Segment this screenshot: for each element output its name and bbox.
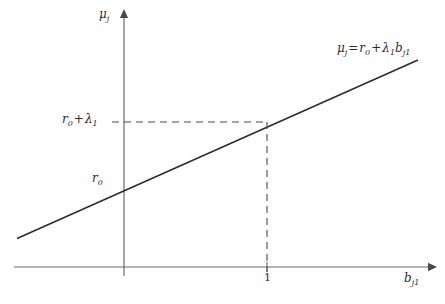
regression-line bbox=[17, 60, 418, 239]
equation-term2-symbol: λ bbox=[382, 41, 390, 55]
y-tick-term1-subscript: 0 bbox=[68, 119, 73, 128]
intercept-subscript: 0 bbox=[98, 178, 103, 187]
equation-plus-sign: + bbox=[370, 41, 382, 55]
y-axis-tick-label-sum: r0+λ1 bbox=[62, 113, 98, 125]
equation-term2-subscript: 1 bbox=[390, 48, 395, 57]
equation-lhs-symbol: μ bbox=[337, 41, 345, 55]
y-tick-term1-symbol: r bbox=[62, 112, 68, 126]
equation-lhs-subscript: j bbox=[345, 48, 347, 57]
x-axis-label: bj1 bbox=[404, 272, 419, 284]
line-equation-label: μj=r0+λ1bj1 bbox=[337, 42, 410, 54]
figure-canvas: μj bj1 μj=r0+λ1bj1 r0+λ1 r0 1 bbox=[0, 0, 445, 304]
x-axis-tick-label-one: 1 bbox=[264, 272, 271, 283]
equation-term3-subscript: j1 bbox=[403, 48, 411, 57]
equation-term1-subscript: 0 bbox=[365, 48, 370, 57]
y-axis-arrowhead bbox=[120, 9, 128, 18]
y-tick-plus-sign: + bbox=[73, 112, 85, 126]
y-axis-label-symbol: μ bbox=[99, 7, 107, 21]
equation-equals-sign: = bbox=[347, 41, 359, 55]
intercept-symbol: r bbox=[92, 171, 98, 185]
y-axis-label: μj bbox=[99, 8, 109, 20]
y-tick-term2-subscript: 1 bbox=[93, 119, 98, 128]
equation-term3-symbol: b bbox=[395, 41, 403, 55]
x-axis-label-symbol: b bbox=[404, 271, 412, 285]
y-tick-term2-symbol: λ bbox=[85, 112, 93, 126]
x-axis-arrowhead bbox=[428, 263, 437, 271]
y-axis-label-subscript: j bbox=[107, 14, 109, 23]
x-axis-label-subscript: j1 bbox=[412, 278, 420, 287]
y-intercept-label: r0 bbox=[92, 172, 103, 184]
